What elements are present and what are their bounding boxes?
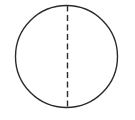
circle-outline — [16, 6, 118, 108]
circle-diagram — [0, 0, 135, 120]
